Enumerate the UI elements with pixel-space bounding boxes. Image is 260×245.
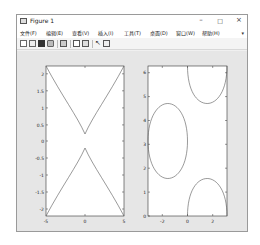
edit-plot-arrow-icon[interactable]: ↖ (95, 40, 102, 47)
title-bar[interactable]: Figure 1 – □ × (17, 15, 247, 28)
menu-window[interactable]: 窗口(W) (176, 29, 195, 36)
toolbar-separator (70, 40, 71, 48)
plots-svg: 2 1.5 1 0.5 0 -0.5 -1 -1.5 -2 -5 0 5 (17, 51, 249, 231)
svg-text:5: 5 (143, 94, 146, 99)
svg-text:-0.5: -0.5 (35, 156, 44, 161)
property-inspector-icon[interactable] (103, 40, 110, 47)
menu-view[interactable]: 查看(V) (72, 29, 89, 36)
open-file-icon[interactable] (29, 40, 36, 47)
svg-text:4: 4 (143, 118, 146, 123)
svg-text:-1.5: -1.5 (35, 190, 44, 195)
menu-file[interactable]: 文件(F) (20, 29, 37, 36)
figure-window: Figure 1 – □ × 文件(F) 编辑(E) 查看(V) 插入(I) 工… (16, 14, 248, 232)
save-icon[interactable] (38, 40, 45, 47)
new-figure-icon[interactable] (20, 40, 27, 47)
matlab-figure-icon (20, 18, 27, 24)
svg-text:3: 3 (143, 142, 146, 147)
left-axes[interactable]: 2 1.5 1 0.5 0 -0.5 -1 -1.5 -2 -5 0 5 (35, 66, 125, 224)
svg-text:1: 1 (143, 190, 146, 195)
figure-toolbar: ↖ (17, 38, 247, 50)
svg-text:2: 2 (41, 72, 44, 77)
svg-text:2: 2 (211, 219, 214, 224)
close-button[interactable]: × (233, 16, 245, 24)
menu-tools[interactable]: 工具(T) (124, 29, 141, 36)
svg-text:0: 0 (41, 139, 44, 144)
insert-colorbar-icon[interactable] (73, 40, 80, 47)
menu-overflow-icon[interactable]: ▾ (241, 30, 244, 36)
toolbar-separator (92, 40, 93, 48)
window-title: Figure 1 (30, 17, 54, 24)
print-icon[interactable] (47, 40, 54, 47)
svg-text:5: 5 (123, 219, 126, 224)
insert-legend-icon[interactable] (82, 40, 89, 47)
minimize-button[interactable]: – (195, 16, 207, 24)
menu-edit[interactable]: 编辑(E) (46, 29, 63, 36)
svg-text:-5: -5 (44, 219, 49, 224)
svg-text:0: 0 (143, 214, 146, 219)
svg-text:-1: -1 (40, 173, 45, 178)
menu-bar: 文件(F) 编辑(E) 查看(V) 插入(I) 工具(T) 桌面(D) 窗口(W… (17, 28, 247, 38)
svg-text:6: 6 (143, 70, 146, 75)
svg-text:1: 1 (41, 106, 44, 111)
svg-text:0: 0 (186, 219, 189, 224)
figure-canvas: 2 1.5 1 0.5 0 -0.5 -1 -1.5 -2 -5 0 5 (17, 51, 247, 231)
right-axes[interactable]: 0 1 2 3 4 5 6 -2 0 2 (143, 66, 227, 224)
menu-insert[interactable]: 插入(I) (98, 29, 113, 36)
toolbar-separator (57, 40, 58, 48)
svg-text:2: 2 (143, 166, 146, 171)
svg-text:0: 0 (84, 219, 87, 224)
svg-text:0.5: 0.5 (37, 123, 44, 128)
maximize-button[interactable]: □ (214, 17, 226, 24)
menu-help[interactable]: 帮助(H) (202, 29, 220, 36)
svg-text:1.5: 1.5 (37, 89, 44, 94)
link-plot-icon[interactable] (60, 40, 67, 47)
menu-desktop[interactable]: 桌面(D) (150, 29, 168, 36)
svg-text:-2: -2 (160, 219, 165, 224)
svg-text:-2: -2 (40, 207, 45, 212)
